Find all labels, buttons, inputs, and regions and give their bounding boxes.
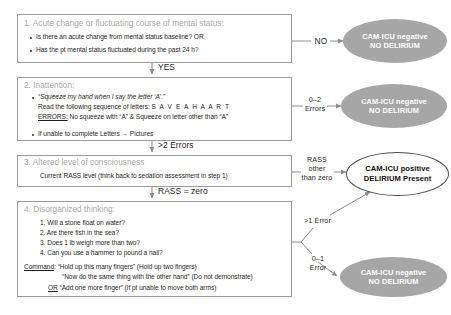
outcome-negative-bottom-line2: NO DELIRIUM bbox=[369, 277, 419, 286]
outcome-negative-bottom-line1: CAM-ICU negative bbox=[361, 268, 427, 277]
step-4-command-text-1: : “Hold up this many fingers” (Hold up t… bbox=[54, 263, 197, 270]
step-2-letters: S A V E A H A A R T bbox=[151, 103, 230, 110]
edge-label-no: NO bbox=[311, 36, 331, 46]
step-4-title: 4. Disorganized thinking: bbox=[24, 205, 115, 214]
edge-label-errors-0-1-line1: 0–1 bbox=[303, 254, 333, 263]
step-4-command-line-3: OR “Add one more finger” (If pt unable t… bbox=[48, 284, 216, 291]
outcome-positive-line2: DELIRIUM Present bbox=[364, 174, 431, 184]
step-4-command-label: Command bbox=[24, 263, 54, 270]
outcome-negative-mid: CAM-ICU negative NO DELIRIUM bbox=[341, 84, 447, 128]
edge-label-rass-other-line3: than zero bbox=[296, 173, 338, 182]
flowchart-canvas: 1. Acute change or fluctuating course of… bbox=[0, 0, 451, 315]
outcome-negative-bottom: CAM-ICU negative NO DELIRIUM bbox=[340, 257, 447, 297]
edge-label-errors-0-1: 0–1 Error bbox=[303, 254, 333, 272]
step-2-errors-line: ERRORS: No squeeze with “A” & Squeeze on… bbox=[38, 113, 228, 120]
step-4-question-1: 1. Will a stone float on water? bbox=[40, 219, 125, 226]
step-2-quote: “Squeeze my hand when I say the letter ‘… bbox=[38, 93, 165, 100]
step-3-detail: Current RASS level (think back to sedati… bbox=[40, 172, 228, 179]
step-2-read-line: Read the following sequence of letters: … bbox=[38, 103, 230, 110]
step-4-command-text-3: “Add one more finger” (If pt unable to m… bbox=[60, 284, 217, 291]
edge-label-errors-0-1-line2: Error bbox=[303, 263, 333, 272]
step-4-command-line-2: “Now do the same thing with the other ha… bbox=[62, 273, 253, 280]
step-1-title: 1. Acute change or fluctuating course of… bbox=[24, 19, 224, 28]
step-4-or-label: OR bbox=[48, 284, 58, 291]
step-4-question-2: 2. Are there fish in the sea? bbox=[40, 229, 119, 236]
step-1-bullet-2: Has the pt mental status fluctuated duri… bbox=[36, 46, 198, 53]
step-2-fallback: If unable to complete Letters → Pictures bbox=[38, 130, 153, 137]
edge-label-rass-other: RASS other than zero bbox=[296, 155, 338, 182]
edge-label-errors-0-2: 0–2 Errors bbox=[299, 95, 331, 113]
step-2-errors-label: ERRORS: bbox=[38, 113, 68, 120]
edge-label-errors-0-2-line2: Errors bbox=[299, 104, 331, 113]
bullet-icon bbox=[30, 37, 32, 39]
step-3-title: 3. Altered level of consciousness bbox=[24, 158, 144, 167]
step-2-title: 2. Inattention: bbox=[24, 81, 74, 90]
edge-label-rass-other-line1: RASS bbox=[296, 155, 338, 164]
edge-label-rass-other-line2: other bbox=[296, 164, 338, 173]
outcome-positive-line1: CAM-ICU positive bbox=[365, 164, 430, 174]
outcome-negative-top-line1: CAM-ICU negative bbox=[362, 32, 428, 41]
outcome-positive: CAM-ICU positive DELIRIUM Present bbox=[346, 152, 449, 196]
edge-label-errors-0-2-line1: 0–2 bbox=[299, 95, 331, 104]
edge-label-errors-gt1: >1 Error bbox=[304, 216, 331, 225]
edge-label-rass-zero: RASS = zero bbox=[158, 186, 208, 196]
edge-label-yes: YES bbox=[158, 62, 175, 72]
edge-label-errors-gt2: >2 Errors bbox=[158, 140, 194, 150]
bullet-icon bbox=[32, 97, 34, 99]
step-2-read-prefix: Read the following sequence of letters: bbox=[38, 103, 150, 110]
step-1-bullet-1: Is there an acute change from mental sta… bbox=[36, 33, 204, 40]
step-4-command-line-1: Command: “Hold up this many fingers” (Ho… bbox=[24, 263, 197, 270]
bullet-icon bbox=[32, 134, 34, 136]
outcome-negative-mid-line1: CAM-ICU negative bbox=[361, 97, 427, 106]
step-4-question-4: 4. Can you use a hammer to pound a nail? bbox=[40, 249, 163, 256]
step-4-question-3: 3. Does 1 lb weigh more than two? bbox=[40, 239, 140, 246]
bullet-icon bbox=[30, 50, 32, 52]
outcome-negative-top: CAM-ICU negative NO DELIRIUM bbox=[343, 19, 447, 63]
step-2-errors-text: No squeeze with “A” & Squeeze on letter … bbox=[70, 113, 229, 120]
outcome-negative-mid-line2: NO DELIRIUM bbox=[369, 106, 419, 115]
outcome-negative-top-line2: NO DELIRIUM bbox=[370, 41, 420, 50]
